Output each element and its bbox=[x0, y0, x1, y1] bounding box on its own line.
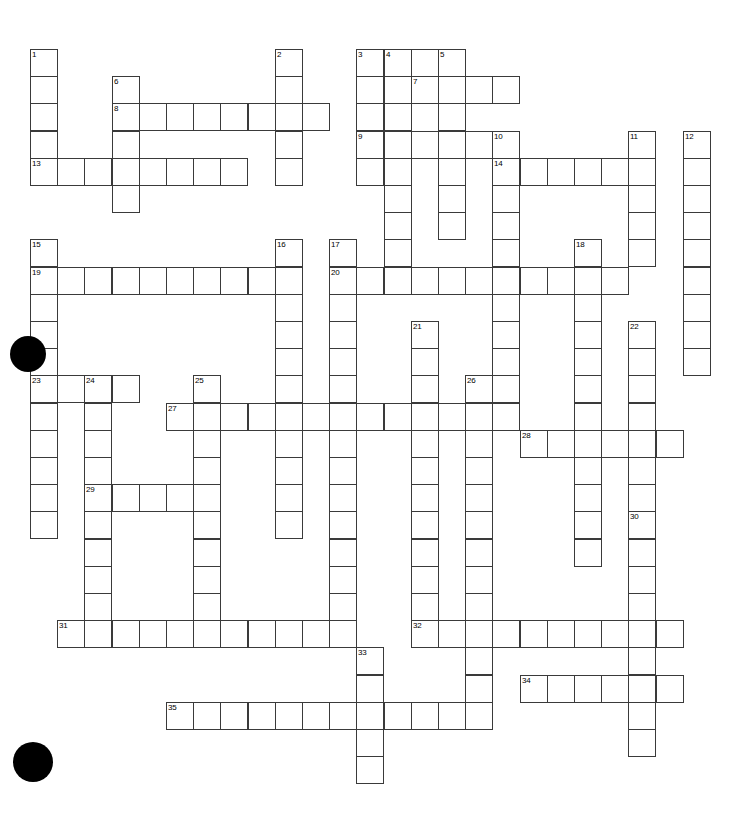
crossword-cell[interactable]: 28 bbox=[520, 430, 548, 458]
crossword-cell[interactable] bbox=[248, 702, 276, 730]
crossword-cell[interactable] bbox=[411, 539, 439, 567]
crossword-cell[interactable] bbox=[438, 267, 466, 295]
crossword-cell[interactable] bbox=[628, 403, 656, 431]
crossword-cell[interactable] bbox=[84, 539, 112, 567]
crossword-cell[interactable] bbox=[492, 239, 520, 267]
crossword-cell[interactable] bbox=[275, 403, 303, 431]
crossword-cell[interactable] bbox=[248, 103, 276, 131]
crossword-cell[interactable] bbox=[628, 729, 656, 757]
crossword-cell[interactable] bbox=[329, 593, 357, 621]
crossword-cell[interactable] bbox=[465, 457, 493, 485]
crossword-cell[interactable] bbox=[220, 267, 248, 295]
crossword-cell[interactable] bbox=[492, 294, 520, 322]
crossword-cell[interactable] bbox=[492, 348, 520, 376]
crossword-cell[interactable] bbox=[628, 566, 656, 594]
crossword-cell[interactable] bbox=[601, 267, 629, 295]
crossword-cell[interactable] bbox=[547, 267, 575, 295]
crossword-cell[interactable] bbox=[356, 702, 384, 730]
crossword-cell[interactable] bbox=[574, 620, 602, 648]
crossword-cell[interactable] bbox=[384, 212, 412, 240]
crossword-cell[interactable] bbox=[492, 375, 520, 403]
crossword-cell[interactable] bbox=[492, 212, 520, 240]
crossword-cell[interactable]: 7 bbox=[411, 76, 439, 104]
crossword-cell[interactable] bbox=[57, 267, 85, 295]
crossword-cell[interactable] bbox=[683, 348, 711, 376]
crossword-cell[interactable] bbox=[574, 539, 602, 567]
crossword-cell[interactable] bbox=[329, 539, 357, 567]
crossword-cell[interactable] bbox=[683, 185, 711, 213]
crossword-cell[interactable]: 16 bbox=[275, 239, 303, 267]
crossword-cell[interactable]: 29 bbox=[84, 484, 112, 512]
crossword-cell[interactable]: 33 bbox=[356, 647, 384, 675]
crossword-cell[interactable] bbox=[275, 348, 303, 376]
crossword-cell[interactable] bbox=[384, 702, 412, 730]
crossword-cell[interactable] bbox=[384, 103, 412, 131]
crossword-cell[interactable]: 14 bbox=[492, 158, 520, 186]
crossword-cell[interactable] bbox=[30, 403, 58, 431]
crossword-cell[interactable] bbox=[84, 403, 112, 431]
crossword-cell[interactable] bbox=[656, 675, 684, 703]
crossword-cell[interactable] bbox=[683, 321, 711, 349]
crossword-cell[interactable] bbox=[574, 267, 602, 295]
crossword-cell[interactable] bbox=[275, 430, 303, 458]
crossword-cell[interactable]: 30 bbox=[628, 511, 656, 539]
crossword-cell[interactable] bbox=[84, 457, 112, 485]
crossword-cell[interactable] bbox=[628, 702, 656, 730]
crossword-cell[interactable] bbox=[411, 375, 439, 403]
crossword-cell[interactable] bbox=[30, 294, 58, 322]
crossword-cell[interactable] bbox=[574, 348, 602, 376]
crossword-cell[interactable] bbox=[112, 131, 140, 159]
crossword-cell[interactable] bbox=[683, 212, 711, 240]
crossword-cell[interactable] bbox=[84, 593, 112, 621]
crossword-cell[interactable]: 22 bbox=[628, 321, 656, 349]
crossword-cell[interactable] bbox=[492, 267, 520, 295]
crossword-cell[interactable] bbox=[384, 267, 412, 295]
crossword-cell[interactable] bbox=[465, 702, 493, 730]
crossword-cell[interactable]: 35 bbox=[166, 702, 194, 730]
crossword-cell[interactable] bbox=[574, 484, 602, 512]
crossword-cell[interactable] bbox=[275, 267, 303, 295]
crossword-cell[interactable] bbox=[601, 430, 629, 458]
crossword-cell[interactable] bbox=[329, 702, 357, 730]
crossword-cell[interactable] bbox=[411, 511, 439, 539]
crossword-cell[interactable] bbox=[492, 321, 520, 349]
crossword-cell[interactable] bbox=[628, 457, 656, 485]
crossword-cell[interactable] bbox=[411, 403, 439, 431]
crossword-cell[interactable] bbox=[547, 675, 575, 703]
crossword-cell[interactable]: 34 bbox=[520, 675, 548, 703]
crossword-cell[interactable] bbox=[465, 620, 493, 648]
crossword-cell[interactable] bbox=[438, 131, 466, 159]
crossword-cell[interactable]: 8 bbox=[112, 103, 140, 131]
crossword-cell[interactable] bbox=[465, 511, 493, 539]
crossword-cell[interactable] bbox=[601, 675, 629, 703]
crossword-cell[interactable] bbox=[465, 675, 493, 703]
crossword-cell[interactable] bbox=[574, 375, 602, 403]
crossword-cell[interactable] bbox=[112, 185, 140, 213]
crossword-cell[interactable] bbox=[193, 158, 221, 186]
crossword-cell[interactable] bbox=[628, 430, 656, 458]
crossword-cell[interactable] bbox=[275, 158, 303, 186]
crossword-cell[interactable] bbox=[628, 158, 656, 186]
crossword-cell[interactable] bbox=[411, 593, 439, 621]
crossword-cell[interactable] bbox=[30, 76, 58, 104]
crossword-cell[interactable] bbox=[139, 267, 167, 295]
crossword-cell[interactable] bbox=[356, 675, 384, 703]
crossword-cell[interactable] bbox=[248, 403, 276, 431]
crossword-cell[interactable] bbox=[84, 267, 112, 295]
crossword-cell[interactable] bbox=[193, 593, 221, 621]
crossword-cell[interactable] bbox=[193, 267, 221, 295]
crossword-cell[interactable] bbox=[656, 620, 684, 648]
crossword-cell[interactable] bbox=[628, 539, 656, 567]
crossword-cell[interactable] bbox=[574, 430, 602, 458]
crossword-cell[interactable] bbox=[220, 103, 248, 131]
crossword-cell[interactable] bbox=[656, 430, 684, 458]
crossword-cell[interactable] bbox=[683, 267, 711, 295]
crossword-cell[interactable] bbox=[574, 457, 602, 485]
crossword-cell[interactable]: 11 bbox=[628, 131, 656, 159]
crossword-cell[interactable] bbox=[302, 702, 330, 730]
crossword-cell[interactable] bbox=[356, 267, 384, 295]
crossword-cell[interactable] bbox=[520, 158, 548, 186]
crossword-cell[interactable] bbox=[438, 185, 466, 213]
crossword-cell[interactable] bbox=[275, 511, 303, 539]
crossword-cell[interactable] bbox=[384, 76, 412, 104]
